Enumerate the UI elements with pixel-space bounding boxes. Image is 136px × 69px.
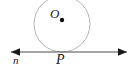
tangent-point-label-p: P [56, 53, 65, 67]
circle-shape [34, 0, 90, 52]
figure-canvas [0, 0, 136, 69]
geometry-figure: O P n [0, 0, 136, 69]
line-label-n: n [13, 55, 19, 66]
center-point-dot [60, 18, 64, 22]
right-arrowhead-icon [118, 48, 127, 56]
center-label-o: O [50, 7, 59, 20]
